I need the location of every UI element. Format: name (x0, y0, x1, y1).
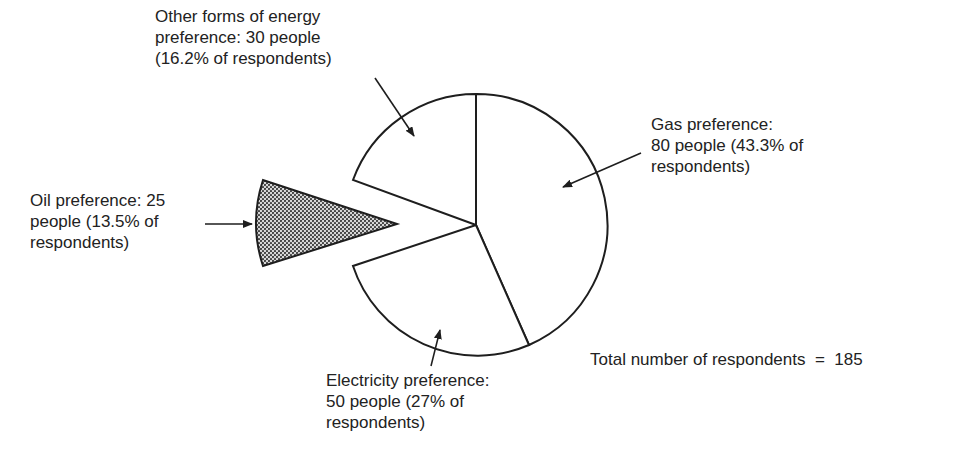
total-respondents: Total number of respondents = 185 (590, 349, 863, 370)
label-electricity: Electricity preference: 50 people (27% o… (326, 370, 489, 433)
label-other-energy: Other forms of energy preference: 30 peo… (155, 6, 332, 69)
slice-oil (256, 180, 397, 266)
label-gas: Gas preference: 80 people (43.3% of resp… (651, 114, 803, 177)
slice-other (353, 94, 476, 225)
label-oil: Oil preference: 25 people (13.5% of resp… (30, 190, 165, 253)
